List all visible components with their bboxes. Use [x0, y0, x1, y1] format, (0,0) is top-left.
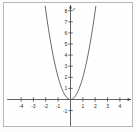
x-tick-label: 4: [119, 104, 122, 109]
graph-figure: -4 -3 -2 -1 1 2 3 4 -1 1 2 3 4 5 6 7 8 y: [0, 0, 136, 132]
x-tick-label: -4: [19, 104, 23, 109]
y-axis-label: y: [73, 6, 75, 11]
x-tick-label: 1: [82, 104, 85, 109]
y-tick-label: 7: [61, 19, 67, 24]
y-tick-label: 2: [61, 75, 67, 80]
x-tick-label: -2: [44, 104, 48, 109]
x-tick-label: -1: [56, 104, 60, 109]
y-tick-label: 3: [61, 64, 67, 69]
y-tick-label: 1: [61, 86, 67, 91]
y-tick-label: 4: [61, 53, 67, 58]
x-tick-label: 3: [106, 104, 109, 109]
x-tick-label: 2: [94, 104, 97, 109]
y-axis-arrow-icon: [69, 5, 72, 8]
y-tick-label: 5: [61, 42, 67, 47]
y-tick-label: 6: [61, 30, 67, 35]
x-tick-label: -3: [31, 104, 35, 109]
y-tick-label: 8: [61, 8, 67, 13]
y-tick-label: -1: [61, 108, 67, 113]
x-axis-arrow-icon: [128, 98, 131, 101]
parabola-plot: [0, 0, 136, 132]
